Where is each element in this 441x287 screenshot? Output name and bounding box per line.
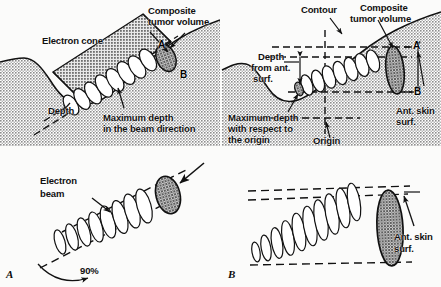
leader-contour <box>330 18 342 34</box>
max-depth-origin-line2: with respect to <box>228 124 293 135</box>
depth-from-ant-surf-line2: from ant. <box>251 63 290 74</box>
depth-from-ant-surf-line1: Depth <box>258 52 284 63</box>
point-b-label: B <box>180 69 187 80</box>
origin-label: Origin <box>313 136 340 147</box>
max-depth-origin-line1: Maximum depth <box>228 113 298 124</box>
ant-skin-surf-label-b-line1: Ant. skin <box>394 232 433 243</box>
field-face-disc <box>152 174 184 217</box>
electron-beam-label-line1: Electron <box>40 176 77 187</box>
electron-cone-label: Electron cone <box>42 36 103 47</box>
ant-skin-surf-label-b-line2: surf. <box>394 244 414 255</box>
depth-label: Depth <box>48 106 74 117</box>
field-face-disc <box>375 189 405 266</box>
electron-beam-label-line2: beam <box>40 189 64 200</box>
panel-caption-a: A <box>6 268 13 280</box>
ant-skin-surf-label-line2: surf. <box>396 117 416 128</box>
composite-tumor-volume-label-r-line2: tumor volume <box>350 14 411 25</box>
isodose-ellipse-chain <box>52 187 156 255</box>
point-b-label-right: B <box>414 86 421 97</box>
figure-root: Composite tumor volume Electron cone Dep… <box>0 0 441 287</box>
contour-label: Contour <box>301 5 337 16</box>
point-a-label-right: A <box>413 40 420 51</box>
composite-tumor-volume-label-r-line1: Composite <box>360 3 408 14</box>
point-a-label: A <box>158 39 165 50</box>
depth-from-ant-surf-line3: surf. <box>253 74 273 85</box>
leader-ant-skin-surf <box>404 196 414 226</box>
panel-caption-b: B <box>228 268 235 280</box>
ant-skin-surf-label-line1: Ant. skin <box>396 106 435 117</box>
max-depth-beam-label-line1: Maximum depth <box>103 113 173 124</box>
beam-direction-arrow <box>180 163 204 183</box>
max-depth-origin-line3: the origin <box>228 135 270 146</box>
ninety-percent-label: 90% <box>80 266 99 277</box>
max-depth-beam-label-line2: in the beam direction <box>103 124 195 135</box>
composite-tumor-volume-label-line2: tumor volume <box>148 17 209 28</box>
isodose-ellipse-chain <box>250 182 363 262</box>
composite-tumor-volume-label-line1: Composite <box>148 6 196 17</box>
